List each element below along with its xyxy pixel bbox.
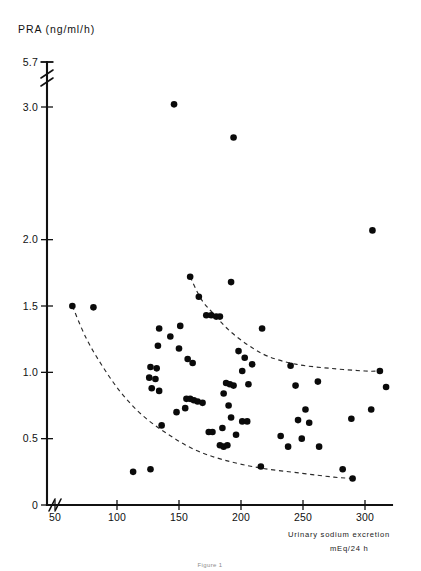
data-point xyxy=(217,313,224,320)
data-point xyxy=(368,406,375,413)
data-point xyxy=(199,400,206,407)
x-axis-units: mEq/24 h xyxy=(330,544,369,553)
x-axis-title: Urinary sodium excretion xyxy=(288,530,390,539)
data-point xyxy=(209,429,216,436)
data-point xyxy=(244,418,251,425)
data-point xyxy=(156,325,163,332)
x-tick-label-200: 200 xyxy=(232,511,250,523)
data-point xyxy=(220,390,227,397)
data-point xyxy=(173,409,180,416)
data-point xyxy=(148,385,155,392)
envelope-upper-boundary xyxy=(190,277,380,371)
data-point xyxy=(377,368,384,375)
data-point xyxy=(182,405,189,412)
data-point xyxy=(298,435,305,442)
data-point xyxy=(155,343,162,350)
y-tick-label-1.0: 1.0 xyxy=(23,366,38,378)
y-axis-title: PRA (ng/ml/h) xyxy=(18,23,95,35)
envelope-lower-boundary xyxy=(72,306,352,478)
y-tick-label-0: 0 xyxy=(32,499,38,511)
data-point xyxy=(316,443,323,450)
y-tick-label-2.0: 2.0 xyxy=(23,233,38,245)
x-tick-label-150: 150 xyxy=(170,511,188,523)
data-point xyxy=(230,382,237,389)
data-point xyxy=(349,475,356,482)
data-point xyxy=(167,333,174,340)
y-tick-label-1.5: 1.5 xyxy=(23,300,38,312)
data-point xyxy=(277,433,284,440)
data-point xyxy=(147,466,154,473)
data-point xyxy=(146,374,153,381)
data-point xyxy=(315,378,322,385)
data-point xyxy=(224,442,231,449)
data-point xyxy=(228,414,235,421)
data-point xyxy=(176,345,183,352)
data-point xyxy=(235,348,242,355)
y-tick-label-3.0: 3.0 xyxy=(23,101,38,113)
x-tick-label-300: 300 xyxy=(356,511,374,523)
data-point xyxy=(152,376,159,383)
data-point xyxy=(177,323,184,330)
data-point xyxy=(230,134,237,141)
data-point xyxy=(285,443,292,450)
data-point xyxy=(196,293,203,300)
data-point xyxy=(302,406,309,413)
data-point xyxy=(241,354,248,361)
data-point xyxy=(189,360,196,367)
data-point xyxy=(147,364,154,371)
axes-group xyxy=(41,62,392,511)
data-point xyxy=(239,368,246,375)
data-point xyxy=(306,419,313,426)
data-point xyxy=(292,382,299,389)
figure-root: PRA (ng/ml/h) 00.51.01.52.03.05.7 501001… xyxy=(0,0,421,571)
data-point xyxy=(348,415,355,422)
data-point xyxy=(171,101,178,108)
data-point xyxy=(69,303,76,310)
figure-caption: Figure 1 xyxy=(197,562,222,568)
x-tick-label-100: 100 xyxy=(108,511,126,523)
y-tick-label-0.5: 0.5 xyxy=(23,432,38,444)
data-point xyxy=(156,388,163,395)
data-point xyxy=(233,431,240,438)
data-point xyxy=(228,279,235,286)
x-tick-label-group: 50100150200250300 xyxy=(49,511,374,523)
x-tick-label-250: 250 xyxy=(294,511,312,523)
data-point xyxy=(287,362,294,369)
data-point xyxy=(258,463,265,470)
data-point xyxy=(130,469,137,476)
x-tick-label-50: 50 xyxy=(49,511,61,523)
data-point xyxy=(187,274,194,281)
data-point xyxy=(153,365,160,372)
data-point-group xyxy=(69,101,389,482)
y-tick-label-group: 00.51.01.52.03.05.7 xyxy=(23,56,38,511)
data-point xyxy=(90,304,97,311)
data-point xyxy=(249,361,256,368)
data-point xyxy=(245,381,252,388)
data-point xyxy=(219,425,226,432)
data-point xyxy=(383,384,390,391)
data-point xyxy=(339,466,346,473)
data-point xyxy=(225,402,232,409)
data-point xyxy=(369,227,376,234)
y-tick-label-5.7: 5.7 xyxy=(23,56,38,68)
scatter-plot: PRA (ng/ml/h) 00.51.01.52.03.05.7 501001… xyxy=(0,0,421,571)
data-point xyxy=(295,417,302,424)
data-point xyxy=(259,325,266,332)
data-point xyxy=(158,422,165,429)
